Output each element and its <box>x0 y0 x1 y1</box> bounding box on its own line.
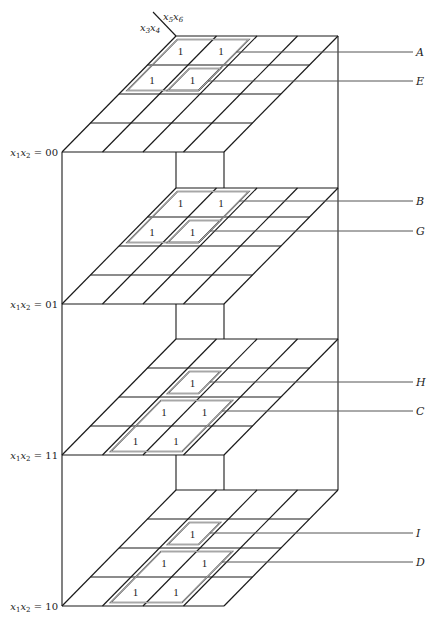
cell-value-one: 1 <box>190 528 196 540</box>
layer-label-layer-11: x1x2 = 11 <box>10 450 58 463</box>
cell-value-one: 1 <box>218 45 224 57</box>
layer-11: 11111x1x2 = 11 <box>10 339 338 463</box>
map-layers: 1111x1x2 = 001111x1x2 = 0111111x1x2 = 11… <box>10 36 338 614</box>
cell-value-one: 1 <box>149 226 155 238</box>
cell-value-one: 1 <box>173 435 179 447</box>
cell-value-one: 1 <box>190 377 196 389</box>
cell-value-one: 1 <box>133 586 139 598</box>
cell-value-one: 1 <box>218 197 224 209</box>
cell-value-one: 1 <box>161 557 167 569</box>
row-variables-label: x3x4 <box>140 22 160 35</box>
cell-value-one: 1 <box>190 74 196 86</box>
cell-value-one: 1 <box>133 435 139 447</box>
cell-value-one: 1 <box>202 557 208 569</box>
layer-10: 11111x1x2 = 10 <box>10 490 338 614</box>
cell-value-one: 1 <box>190 226 196 238</box>
axis-label-group: x5x6 x3x4 <box>140 11 184 36</box>
layer-01: 1111x1x2 = 01 <box>10 188 338 312</box>
cell-value-one: 1 <box>178 197 184 209</box>
loop-label-G: G <box>416 225 425 238</box>
cell-value-one: 1 <box>161 406 167 418</box>
loop-label-C: C <box>416 405 425 418</box>
loop-label-B: B <box>415 195 424 208</box>
cell-value-one: 1 <box>178 45 184 57</box>
loop-label-H: H <box>415 376 426 389</box>
loop-label-I: I <box>415 527 421 540</box>
col-variables-label: x5x6 <box>163 11 184 24</box>
cell-value-one: 1 <box>202 406 208 418</box>
cell-value-one: 1 <box>149 74 155 86</box>
loop-label-D: D <box>415 556 425 569</box>
karnaugh-map-diagram: 1111x1x2 = 001111x1x2 = 0111111x1x2 = 11… <box>0 0 432 621</box>
cell-value-one: 1 <box>173 586 179 598</box>
layer-label-layer-01: x1x2 = 01 <box>10 299 58 312</box>
layer-label-layer-10: x1x2 = 10 <box>10 601 58 614</box>
loop-label-A: A <box>415 46 424 59</box>
layer-00: 1111x1x2 = 00 <box>10 36 338 160</box>
layer-label-layer-00: x1x2 = 00 <box>10 147 58 160</box>
loop-label-E: E <box>415 75 424 88</box>
